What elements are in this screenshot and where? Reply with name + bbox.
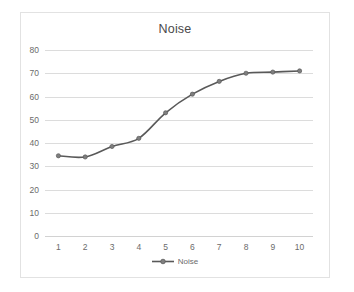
x-tick-label-3: 3: [110, 242, 115, 252]
x-tick-label-8: 8: [244, 242, 249, 252]
data-point-9: [271, 70, 275, 74]
data-point-10: [298, 69, 302, 73]
data-point-5: [164, 111, 168, 115]
x-tick-label-6: 6: [190, 242, 195, 252]
x-tick-label-9: 9: [270, 242, 275, 252]
line-path-noise: [58, 71, 299, 158]
y-tick-label-40: 40: [30, 138, 39, 148]
series-line-noise: [45, 50, 313, 236]
x-tick-label-10: 10: [295, 242, 304, 252]
gridline-y-0: [45, 236, 313, 237]
plot-inner: 01020304050607080 12345678910: [45, 50, 313, 236]
legend-label-noise: Noise: [178, 257, 198, 266]
data-point-1: [56, 154, 60, 158]
chart-card: Noise 01020304050607080 12345678910 Nois…: [20, 12, 330, 278]
y-tick-label-50: 50: [30, 115, 39, 125]
x-tick-label-1: 1: [56, 242, 61, 252]
data-point-2: [83, 155, 87, 159]
plot-area: 01020304050607080 12345678910: [45, 50, 313, 236]
x-tick-label-7: 7: [217, 242, 222, 252]
y-tick-label-80: 80: [30, 45, 39, 55]
legend-marker-icon: [152, 257, 174, 266]
chart-title: Noise: [21, 22, 329, 36]
y-tick-label-70: 70: [30, 68, 39, 78]
data-point-4: [137, 136, 141, 140]
x-tick-label-5: 5: [163, 242, 168, 252]
data-point-6: [190, 92, 194, 96]
x-tick-label-2: 2: [83, 242, 88, 252]
data-point-3: [110, 144, 114, 148]
y-tick-label-0: 0: [34, 231, 39, 241]
data-point-8: [244, 71, 248, 75]
y-tick-label-10: 10: [30, 208, 39, 218]
x-tick-label-4: 4: [136, 242, 141, 252]
chart-legend: Noise: [21, 257, 329, 266]
y-tick-label-20: 20: [30, 185, 39, 195]
y-tick-label-60: 60: [30, 92, 39, 102]
y-tick-label-30: 30: [30, 161, 39, 171]
data-point-7: [217, 79, 221, 83]
